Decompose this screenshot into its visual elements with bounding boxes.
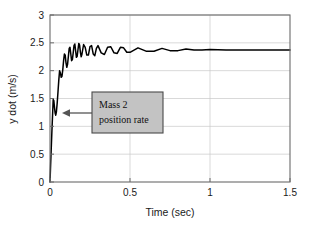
chart-figure: 00.511.522.53 00.511.5 Mass 2 position r… [0,0,312,229]
annotation-text-line2: position rate [99,114,149,125]
y-tick-label: 2 [38,65,44,76]
x-tick-label: 0 [47,187,53,198]
y-tick-label: 2.5 [30,37,44,48]
y-tick-label: 0.5 [30,149,44,160]
y-tick-label: 1.5 [30,93,44,104]
y-tick-label: 3 [38,10,44,21]
line-chart: 00.511.522.53 00.511.5 Mass 2 position r… [0,0,312,229]
x-tick-label: 0.5 [123,187,137,198]
annotation-text-line1: Mass 2 [99,99,128,110]
x-tick-label: 1.5 [283,187,297,198]
y-tick-label: 1 [38,121,44,132]
y-axis-title: y dot (m/s) [6,74,18,124]
x-axis-title: Time (sec) [145,206,194,218]
x-tick-label: 1 [207,187,213,198]
y-tick-label: 0 [38,177,44,188]
